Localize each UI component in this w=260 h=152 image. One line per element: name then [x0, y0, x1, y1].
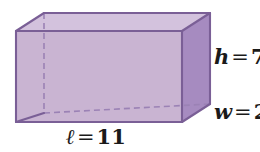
height-value: 7	[251, 44, 260, 69]
height-variable: h	[214, 44, 229, 69]
length-equals-sign: =	[75, 125, 97, 149]
width-equals-sign: =	[232, 100, 254, 124]
length-variable: ℓ	[66, 124, 75, 149]
prism-front-face	[16, 31, 182, 122]
prism-top-face	[16, 13, 210, 31]
prism-drawing	[0, 0, 260, 152]
width-variable: w	[214, 99, 232, 124]
width-dimension-label: w=2	[214, 101, 260, 123]
width-value: 2	[254, 99, 260, 124]
prism-figure: h=7 w=2 ℓ=11	[0, 0, 260, 152]
length-dimension-label: ℓ=11	[66, 126, 126, 148]
height-dimension-label: h=7	[214, 46, 260, 68]
height-equals-sign: =	[229, 45, 251, 69]
length-value: 11	[97, 124, 126, 149]
